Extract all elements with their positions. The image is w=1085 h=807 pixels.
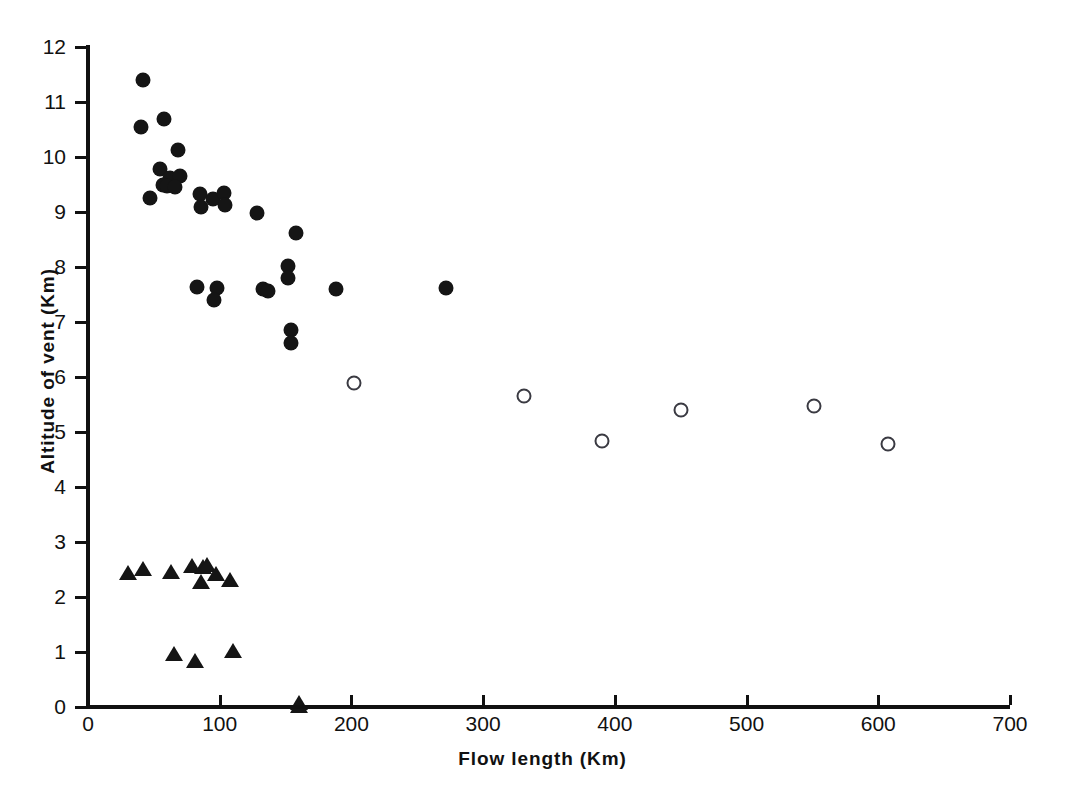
y-tick-5 xyxy=(75,431,86,434)
x-tick-200 xyxy=(350,695,353,705)
y-axis-title: Altitude of vent (Km) xyxy=(37,91,59,651)
x-tick-300 xyxy=(482,695,485,705)
x-tick-400 xyxy=(614,695,617,705)
x-tick-label-600: 600 xyxy=(861,712,896,736)
data-point-open-circle xyxy=(594,433,609,448)
data-point-filled-triangle xyxy=(224,643,242,658)
x-tick-100 xyxy=(219,695,222,705)
plot-area xyxy=(0,0,1085,807)
x-tick-500 xyxy=(746,695,749,705)
y-tick-9 xyxy=(75,211,86,214)
scatter-chart-figure: 01002003004005006007000123456789101112 F… xyxy=(0,0,1085,807)
x-tick-700 xyxy=(1009,695,1012,705)
data-point-filled-circle xyxy=(170,143,185,158)
y-tick-12 xyxy=(75,46,86,49)
data-point-filled-circle xyxy=(281,271,296,286)
x-tick-label-300: 300 xyxy=(466,712,501,736)
data-point-filled-circle xyxy=(157,111,172,126)
data-point-filled-triangle xyxy=(162,564,180,579)
data-point-filled-circle xyxy=(328,282,343,297)
data-point-filled-circle xyxy=(167,180,182,195)
y-tick-8 xyxy=(75,266,86,269)
x-tick-600 xyxy=(877,695,880,705)
x-tick-label-400: 400 xyxy=(597,712,632,736)
data-point-filled-circle xyxy=(207,293,222,308)
data-point-filled-circle xyxy=(133,119,148,134)
data-point-open-circle xyxy=(673,403,688,418)
y-tick-2 xyxy=(75,596,86,599)
y-tick-label-0: 0 xyxy=(26,695,66,719)
data-point-filled-triangle xyxy=(186,653,204,668)
x-tick-label-700: 700 xyxy=(992,712,1027,736)
x-axis-title-text: Flow length (Km) xyxy=(458,748,627,770)
y-axis-line xyxy=(86,45,90,709)
data-point-filled-circle xyxy=(217,198,232,213)
data-point-filled-triangle xyxy=(221,572,239,587)
data-point-filled-circle xyxy=(142,190,157,205)
x-tick-label-100: 100 xyxy=(202,712,237,736)
x-tick-label-500: 500 xyxy=(729,712,764,736)
data-point-filled-circle xyxy=(289,225,304,240)
data-point-open-circle xyxy=(516,388,531,403)
data-point-filled-circle xyxy=(249,206,264,221)
y-tick-3 xyxy=(75,541,86,544)
data-point-open-circle xyxy=(347,375,362,390)
data-point-filled-triangle xyxy=(165,646,183,661)
y-tick-label-12: 12 xyxy=(26,35,66,59)
x-tick-0 xyxy=(87,695,90,705)
data-point-filled-circle xyxy=(136,73,151,88)
data-point-filled-circle xyxy=(439,280,454,295)
y-tick-4 xyxy=(75,486,86,489)
x-axis-title: Flow length (Km) xyxy=(0,748,1085,770)
y-tick-0 xyxy=(75,706,86,709)
y-tick-1 xyxy=(75,651,86,654)
data-point-filled-circle xyxy=(190,280,205,295)
data-point-filled-circle xyxy=(261,283,276,298)
x-tick-label-0: 0 xyxy=(82,712,94,736)
data-point-open-circle xyxy=(880,437,895,452)
data-point-open-circle xyxy=(806,398,821,413)
data-point-filled-circle xyxy=(194,199,209,214)
y-tick-10 xyxy=(75,156,86,159)
data-point-filled-triangle xyxy=(134,561,152,576)
y-axis-title-text: Altitude of vent (Km) xyxy=(37,268,58,474)
data-point-filled-circle xyxy=(283,335,298,350)
x-axis-line xyxy=(88,705,1010,709)
y-tick-11 xyxy=(75,101,86,104)
y-tick-6 xyxy=(75,376,86,379)
x-tick-label-200: 200 xyxy=(334,712,369,736)
y-tick-7 xyxy=(75,321,86,324)
